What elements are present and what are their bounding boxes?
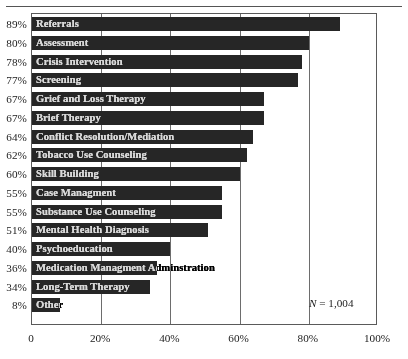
bar-value-label: 55% [0,205,27,219]
bar-category-label: Grief and Loss Therapy [36,92,146,106]
horizontal-bar-chart: 89%Referrals80%Assessment78%Crisis Inter… [0,0,408,359]
bar-value-label: 36% [0,261,27,275]
bar-category-label: Substance Use Counseling [36,205,156,219]
bar-row: 55%Case Managment [0,186,408,200]
bar-row: 78%Crisis Intervention [0,55,408,69]
bar-value-label: 78% [0,55,27,69]
bar-value-label: 60% [0,167,27,181]
bar-value-label: 64% [0,130,27,144]
bar-category-label: Long-Term Therapy [36,280,130,294]
bar-row: 77%Screening [0,73,408,87]
x-tick-20%: 20% [90,332,111,344]
bar-row: 34%Long-Term Therapy [0,280,408,294]
sample-size-annotation: N = 1,004 [309,297,354,309]
bar-category-label: Referrals [36,17,79,31]
bar-value-label: 8% [0,298,27,312]
bar-row: 36%Medication Managment Adminstration [0,261,408,275]
bar-row: 40%Psychoeducation [0,242,408,256]
x-axis: 020%40%60%80%100% [31,326,377,348]
bar-value-label: 89% [0,17,27,31]
bar-row: 89%Referrals [0,17,408,31]
x-tick-100%: 100% [364,332,390,344]
x-tick-40%: 40% [159,332,180,344]
x-tick-80%: 80% [298,332,319,344]
bar-value-label: 77% [0,73,27,87]
sample-size-value: = 1,004 [319,297,353,309]
bar-value-label: 62% [0,148,27,162]
bar-value-label: 67% [0,111,27,125]
bar-value-label: 80% [0,36,27,50]
bar-category-label: Psychoeducation [36,242,113,256]
bar-row: 67%Grief and Loss Therapy [0,92,408,106]
sample-size-symbol: N [309,297,316,309]
bar-value-label: 67% [0,92,27,106]
bar-category-label: Other [36,298,63,312]
bar-category-label: Medication Managment Adminstration [36,261,215,275]
bar-row: 62%Tobacco Use Counseling [0,148,408,162]
bar-value-label: 55% [0,186,27,200]
bar-value-label: 40% [0,242,27,256]
bar-value-label: 51% [0,223,27,237]
bar-value-label: 34% [0,280,27,294]
bar-row: 60%Skill Building [0,167,408,181]
bar-row: 80%Assessment [0,36,408,50]
bar-category-label: Tobacco Use Counseling [36,148,147,162]
bar-category-label: Brief Therapy [36,111,101,125]
x-tick-0: 0 [28,332,34,344]
bar-row: 64%Conflict Resolution/Mediation [0,130,408,144]
bar-category-label: Screening [36,73,81,87]
bar-category-label: Crisis Intervention [36,55,123,69]
bar-category-label: Skill Building [36,167,99,181]
bar-category-label: Mental Health Diagnosis [36,223,149,237]
x-tick-60%: 60% [228,332,249,344]
bar-row: 55%Substance Use Counseling [0,205,408,219]
bar-row: 51%Mental Health Diagnosis [0,223,408,237]
bar-category-label: Assessment [36,36,88,50]
bar-category-label: Case Managment [36,186,116,200]
bar-category-label: Conflict Resolution/Mediation [36,130,174,144]
bar-row: 67%Brief Therapy [0,111,408,125]
